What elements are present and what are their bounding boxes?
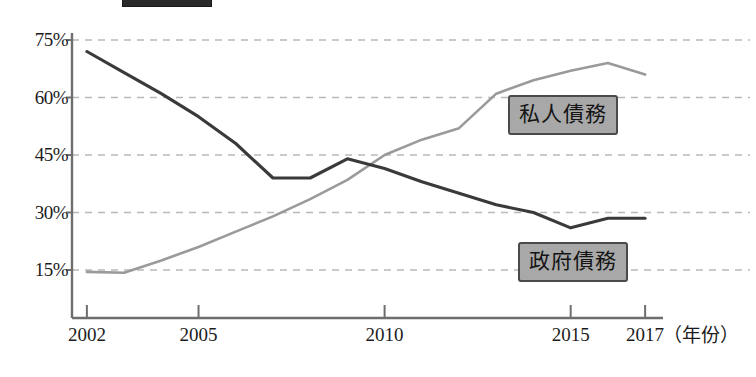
x-axis-tick-label: 2010 <box>366 325 404 345</box>
x-axis-title: （年份） <box>663 325 739 345</box>
series-line-government-debt <box>87 52 645 228</box>
series-label-government-debt: 政府債務 <box>518 242 628 282</box>
y-axis-tick-label: 60% <box>6 88 68 107</box>
x-axis-tick-label: 2015 <box>552 325 590 345</box>
series-label-private-debt: 私人債務 <box>508 95 618 135</box>
y-axis-tick-label: 45% <box>6 145 68 164</box>
line-chart-plot <box>0 0 756 377</box>
x-axis-tick-label: 2017 <box>626 325 664 345</box>
x-axis-tick-label: 2005 <box>180 325 218 345</box>
y-axis-tick-label: 15% <box>6 260 68 279</box>
y-axis-tick-label: 30% <box>6 203 68 222</box>
y-axis-tick-labels: 15%30%45%60%75% <box>0 0 68 377</box>
chart-container: 15%30%45%60%75% 20022005201020152017 （年份… <box>0 0 756 377</box>
y-axis-tick-label: 75% <box>6 30 68 49</box>
x-axis-tick-label: 2002 <box>68 325 106 345</box>
